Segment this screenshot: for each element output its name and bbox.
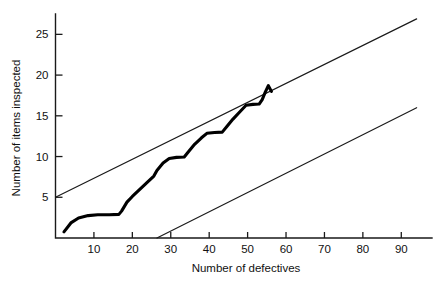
x-axis-tick-labels: 102030405060708090 [88,243,408,255]
x-tick-label-60: 60 [280,243,293,255]
y-tick-label-15: 15 [36,110,49,122]
y-axis-title: Number of items inspected [10,60,22,197]
axis-lines [56,14,433,238]
y-axis-tick-labels: 510152025 [36,28,49,203]
y-tick-label-25: 25 [36,28,49,40]
y-tick-label-20: 20 [36,69,49,81]
statistical-process-chart: 102030405060708090 510152025 Number of d… [0,0,437,281]
chart-container: 102030405060708090 510152025 Number of d… [0,0,437,281]
x-tick-label-50: 50 [241,243,254,255]
x-axis-ticks [94,232,401,238]
series-lower-decision-line [157,108,417,238]
series-upper-decision-line [56,19,417,197]
x-tick-label-40: 40 [203,243,216,255]
data-series-group [56,19,417,238]
x-tick-label-80: 80 [356,243,369,255]
x-tick-label-20: 20 [126,243,139,255]
y-tick-label-5: 5 [42,191,48,203]
x-tick-label-90: 90 [395,243,408,255]
x-tick-label-30: 30 [164,243,177,255]
y-axis-ticks [56,34,63,197]
y-tick-label-10: 10 [36,151,49,163]
series-cumulative-inspection-path [64,86,271,232]
axes-group [56,14,433,238]
x-axis-title: Number of defectives [192,262,301,274]
x-tick-label-70: 70 [318,243,331,255]
x-tick-label-10: 10 [88,243,101,255]
